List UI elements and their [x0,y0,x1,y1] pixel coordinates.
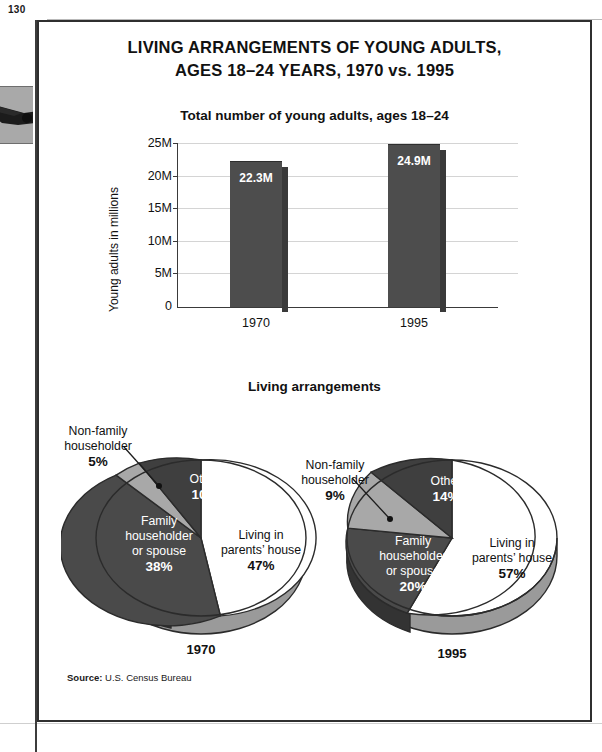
y-tick-mark [173,273,178,274]
callout-line: Family [108,514,210,529]
source-label: Source: [67,672,102,683]
callout-line: or spouse [362,564,464,579]
callout-other-1970: Other 10% [174,472,236,503]
callout-other-1995: Other 14% [415,474,477,505]
y-tick-mark [173,176,178,177]
pie-section-title: Living arrangements [39,379,590,394]
callout-nonfamily-householder-1995: Non-family householder 9% [280,458,390,504]
bar-value-label: 22.3M [230,171,282,185]
callout-line: Non-family [280,458,390,473]
callout-line: Other [415,474,477,489]
y-tick-mark [173,241,178,242]
pie-1995-year-label: 1995 [410,646,494,661]
callout-line: householder [362,549,464,564]
footer-rule [0,723,602,724]
bar-shadow [440,150,446,312]
gridline: 20M [178,176,518,177]
gridline: 10M [178,241,518,242]
y-tick-mark [173,208,178,209]
bar-chart-plot-area: 25M 20M 15M 10M 5M 0 [177,144,498,308]
y-tick-mark [173,143,178,144]
margin-thumbnail-image [0,86,33,144]
callout-line: Living in [464,536,560,551]
callout-line: Other [174,472,236,487]
bar-chart-y-axis-label: Young adults in millions [107,192,121,312]
y-tick-label: 20M [148,169,172,183]
callout-parents-house-1995: Living in parents’ house 57% [464,536,560,582]
bar-chart: Young adults in millions 25M 20M 15M 10M… [109,140,529,350]
callout-percent: 10% [191,487,218,502]
gridline: 15M [178,208,518,209]
callout-line: or spouse [108,544,210,559]
callout-line: householder [280,473,390,488]
callout-line: parents’ house [213,543,309,558]
y-tick-label: 15M [148,201,172,215]
gridline: 5M [178,273,518,274]
bar-chart-title: Total number of young adults, ages 18–24 [39,108,590,123]
y-tick-label: 5M [155,266,172,280]
figure-title: LIVING ARRANGEMENTS OF YOUNG ADULTS, AGE… [39,36,590,82]
callout-family-householder-1970: Family householder or spouse 38% [108,514,210,575]
figure-title-line-1: LIVING ARRANGEMENTS OF YOUNG ADULTS, [39,36,590,59]
callout-percent: 9% [325,488,345,503]
callout-percent: 38% [145,559,172,574]
y-tick-label: 25M [148,136,172,150]
callout-line: Living in [213,528,309,543]
x-tick-label-1995: 1995 [369,316,459,330]
figure-frame: LIVING ARRANGEMENTS OF YOUNG ADULTS, AGE… [37,20,592,722]
bar-top-edge [230,161,282,163]
callout-nonfamily-householder-1970: Non-family householder 5% [43,424,153,470]
callout-percent: 5% [88,454,108,469]
bar-top-edge [388,144,440,146]
gridline: 25M [178,143,518,144]
pie-charts-container: Living in parents’ house 47% Other 10% N… [39,410,590,682]
callout-percent: 20% [399,579,426,594]
y-tick-label: 10M [148,234,172,248]
bar-1970[interactable]: 22.3M 1970 [230,162,282,307]
source-note: Source: U.S. Census Bureau [67,672,192,683]
page-number: 130 [8,4,26,15]
pie-chart-1995[interactable]: Living in parents’ house 57% Other 14% N… [312,430,592,650]
callout-line: Non-family [43,424,153,439]
y-tick-label: 0 [165,299,172,313]
callout-percent: 14% [432,489,459,504]
callout-line: householder [108,529,210,544]
callout-line: Family [362,534,464,549]
pie-1970-year-label: 1970 [159,642,243,657]
callout-parents-house-1970: Living in parents’ house 47% [213,528,309,574]
sunglasses-icon [0,101,33,127]
callout-family-householder-1995: Family householder or spouse 20% [362,534,464,595]
bar-1995[interactable]: 24.9M 1995 [388,145,440,307]
bar-shadow [282,167,288,312]
source-text: U.S. Census Bureau [105,672,192,683]
callout-percent: 47% [247,558,274,573]
callout-line: parents’ house [464,551,560,566]
figure-title-line-2: AGES 18–24 YEARS, 1970 vs. 1995 [39,59,590,82]
axis-baseline: 0 [178,306,518,307]
bar-value-label: 24.9M [388,154,440,168]
callout-percent: 57% [498,566,525,581]
callout-line: householder [43,439,153,454]
x-tick-label-1970: 1970 [211,316,301,330]
